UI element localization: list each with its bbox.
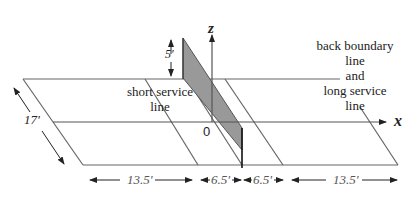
width-arrow-up [14, 88, 30, 112]
segment-label-4: 13.5' [333, 172, 359, 188]
back-boundary-label: back boundary line and long service line [300, 38, 410, 113]
segment-label-3: 6.5' [253, 172, 272, 188]
origin-label: 0 [203, 124, 210, 139]
segment-label-1: 13.5' [127, 172, 153, 188]
segment-label-2: 6.5' [211, 172, 230, 188]
court-width-label: 17' [24, 112, 40, 128]
short-service-line-label: short service line [110, 84, 210, 114]
badminton-court-diagram: z x 0 5' 17' short service line back bou… [0, 0, 420, 199]
z-axis-label: z [208, 20, 214, 37]
net-height-label: 5' [165, 47, 174, 62]
right-back-boundary [360, 107, 398, 165]
width-arrow-down [42, 131, 64, 164]
x-axis-label: x [394, 112, 402, 130]
